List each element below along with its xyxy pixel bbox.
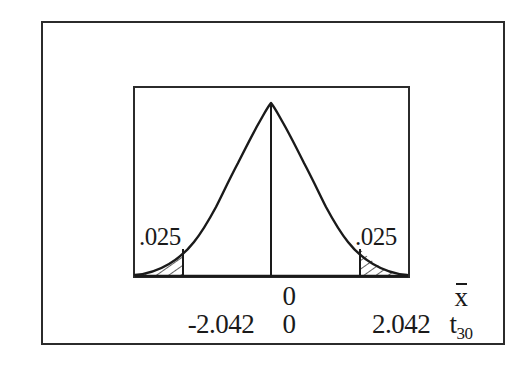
t-axis-row: -2.042 0 2.042 t30 [41, 309, 505, 339]
t-symbol-subscript: 30 [457, 324, 473, 343]
t-axis-variable-symbol: t30 [431, 309, 491, 349]
right-tail-probability-label: .025 [355, 224, 397, 249]
xbar-axis-variable-symbol: x [431, 281, 491, 312]
xbar-axis-row: 0 x [41, 281, 505, 311]
t-symbol-base: t [449, 309, 456, 339]
figure-root: .025 .025 0 x -2.042 0 2.042 t30 [0, 0, 522, 365]
xbar-overbar-symbol: x [455, 281, 468, 312]
t-axis-center-tick-label: 0 [259, 309, 319, 339]
xbar-axis-center-tick-label: 0 [259, 281, 319, 311]
left-tail-probability-label: .025 [139, 224, 181, 249]
